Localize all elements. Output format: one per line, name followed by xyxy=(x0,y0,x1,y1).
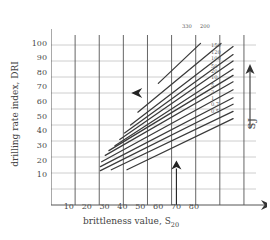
sj-axis: SJ xyxy=(232,60,268,168)
curve-label: 10 xyxy=(211,75,217,80)
x-axis-label-subscript: 20 xyxy=(171,221,179,229)
y-tick-label: 40 xyxy=(23,127,47,135)
y-tick-label: 50 xyxy=(23,113,47,121)
y-axis-label-text: drilling rate index, DRI xyxy=(10,61,20,167)
x-axis-label: brittleness value, S20 xyxy=(51,216,211,229)
curve-label: 0.7 xyxy=(211,102,219,107)
y-tick-label: 80 xyxy=(23,69,47,77)
y-tick-label: 10 xyxy=(23,171,47,179)
y-tick-label: 20 xyxy=(23,157,47,165)
x-axis-label-text: brittleness value, S xyxy=(83,216,171,226)
plot-area xyxy=(51,29,211,199)
curve-label: 0.5 xyxy=(211,109,219,114)
y-tick-label: 60 xyxy=(23,98,47,106)
curve-label: 100 xyxy=(211,56,221,61)
curve-label: 330 xyxy=(182,24,192,29)
y-tick-label: 70 xyxy=(23,83,47,91)
y-axis-label: drilling rate index, DRI xyxy=(8,29,22,199)
y-tick-label: 30 xyxy=(23,142,47,150)
curve-label: 200 xyxy=(200,24,210,29)
chart-root: drilling rate index, DRI 100908070605040… xyxy=(0,0,270,240)
y-tick-label: 100 xyxy=(23,40,47,48)
sj-axis-label: SJ xyxy=(246,107,257,141)
curve-label: 150 xyxy=(211,43,221,48)
y-axis-ticks: 100908070605040302010 xyxy=(21,29,47,199)
curve-label: 1 xyxy=(211,96,214,101)
y-tick-label: 90 xyxy=(23,54,47,62)
curve-label: 5 xyxy=(211,83,214,88)
